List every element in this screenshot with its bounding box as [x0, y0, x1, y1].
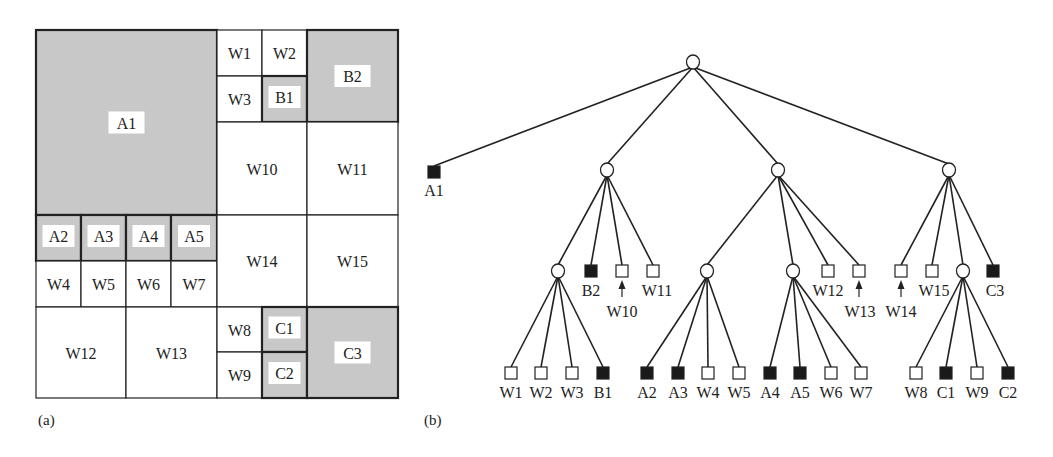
tree-node-w4: W4	[696, 367, 719, 401]
node-label: C1	[937, 384, 956, 401]
internal-node-circle-icon	[943, 163, 956, 177]
tree-node-c1: C1	[937, 367, 956, 401]
tree-edge	[693, 67, 778, 164]
tree-edge	[607, 67, 693, 164]
region-cell-w3: W3	[217, 76, 262, 122]
region-cell-c1: C1	[262, 307, 307, 352]
free-leaf-square-icon	[853, 265, 865, 277]
tree-node-w2: W2	[529, 367, 552, 401]
tree-edge	[693, 67, 949, 164]
node-label: W3	[560, 384, 583, 401]
tree-node-n11	[552, 264, 565, 278]
node-label: W9	[965, 384, 988, 401]
occupied-leaf-square-icon	[794, 367, 806, 379]
cell-label: A3	[94, 228, 114, 245]
tree-node-w12: W12	[812, 265, 843, 299]
free-leaf-square-icon	[910, 367, 922, 379]
occupied-leaf-square-icon	[597, 367, 609, 379]
node-label: W15	[918, 282, 949, 299]
region-cell-a1: A1	[36, 30, 217, 215]
region-cell-a4: A4	[126, 215, 171, 261]
tree-edge	[541, 276, 558, 367]
internal-node-circle-icon	[601, 163, 614, 177]
internal-node-circle-icon	[787, 264, 800, 278]
tree-node-w9: W9	[965, 367, 988, 401]
quadtree-figure: A1W1W2W3B1B2W10W11A2A3A4A5W4W5W6W7W14W15…	[0, 0, 1053, 457]
cell-label: W5	[92, 276, 115, 293]
tree-edge	[678, 276, 707, 367]
occupied-leaf-square-icon	[1002, 367, 1014, 379]
region-cell-w13: W13	[126, 307, 217, 398]
occupied-leaf-square-icon	[764, 367, 776, 379]
cell-label: W11	[337, 161, 368, 178]
occupied-leaf-square-icon	[585, 265, 597, 277]
node-label: W1	[499, 384, 522, 401]
cell-label: W2	[273, 45, 296, 62]
region-cell-c3: C3	[307, 307, 398, 398]
tree-node-c3: C3	[986, 265, 1005, 299]
tree-node-w14: W14	[885, 265, 916, 320]
node-label: A4	[760, 384, 780, 401]
node-label: W13	[844, 303, 875, 320]
cell-label: W10	[246, 161, 277, 178]
panel-a-region-grid: A1W1W2W3B1B2W10W11A2A3A4A5W4W5W6W7W14W15…	[36, 30, 398, 398]
region-cell-w8: W8	[217, 307, 262, 352]
cell-label: A4	[139, 228, 159, 245]
tree-node-a5: A5	[790, 367, 810, 401]
cell-label: W8	[228, 322, 251, 339]
free-leaf-square-icon	[825, 367, 837, 379]
region-cell-w9: W9	[217, 352, 262, 398]
tree-edge	[901, 175, 949, 265]
free-leaf-square-icon	[855, 367, 867, 379]
tree-edge	[707, 276, 708, 367]
node-label: W11	[642, 282, 673, 299]
tree-node-n21	[701, 264, 714, 278]
node-label: W14	[885, 303, 916, 320]
tree-node-w13: W13	[844, 265, 875, 320]
tree-node-w6: W6	[819, 367, 842, 401]
cell-label: W1	[228, 45, 251, 62]
node-label: W5	[727, 384, 750, 401]
tree-edge	[511, 276, 558, 367]
tree-node-a3: A3	[668, 367, 688, 401]
cell-label: W13	[156, 345, 187, 362]
free-leaf-square-icon	[733, 367, 745, 379]
region-cell-w4: W4	[36, 261, 81, 307]
region-cell-a5: A5	[171, 215, 217, 261]
node-label: W4	[696, 384, 719, 401]
tree-node-w1: W1	[499, 367, 522, 401]
free-leaf-square-icon	[702, 367, 714, 379]
tree-node-w11: W11	[642, 265, 673, 299]
node-label: W10	[606, 303, 637, 320]
arrowhead-icon	[898, 280, 905, 289]
region-cell-w14: W14	[217, 215, 307, 307]
node-label: A1	[424, 182, 444, 199]
tree-node-w7: W7	[849, 367, 872, 401]
region-cell-a2: A2	[36, 215, 81, 261]
region-cell-b2: B2	[307, 30, 398, 122]
panel-b-caption: (b)	[424, 412, 442, 429]
cell-label: A1	[117, 115, 137, 132]
node-label: A2	[637, 384, 657, 401]
panel-a-caption: (a)	[38, 412, 55, 429]
tree-node-n2	[772, 163, 785, 177]
region-cell-w10: W10	[217, 122, 307, 215]
region-cell-a3: A3	[81, 215, 126, 261]
free-leaf-square-icon	[616, 265, 628, 277]
tree-node-b1: B1	[594, 367, 613, 401]
tree-node-c2: C2	[999, 367, 1018, 401]
region-cell-w11: W11	[307, 122, 398, 215]
node-label: C2	[999, 384, 1018, 401]
occupied-leaf-square-icon	[987, 265, 999, 277]
cell-label: W3	[228, 91, 251, 108]
tree-node-w15: W15	[918, 265, 949, 299]
tree-edge	[707, 175, 778, 265]
internal-node-circle-icon	[687, 55, 700, 69]
cell-label: C1	[275, 320, 294, 337]
node-label: C3	[986, 282, 1005, 299]
free-leaf-square-icon	[535, 367, 547, 379]
tree-node-w3: W3	[560, 367, 583, 401]
internal-node-circle-icon	[772, 163, 785, 177]
node-label: A5	[790, 384, 810, 401]
free-leaf-square-icon	[505, 367, 517, 379]
